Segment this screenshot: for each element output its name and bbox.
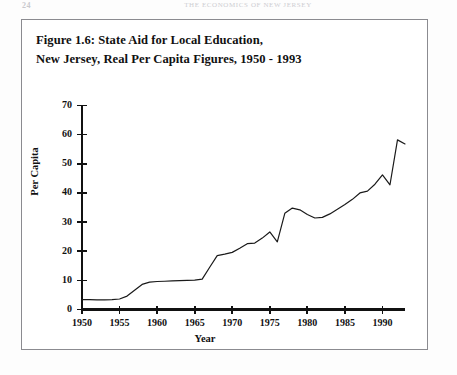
y-axis-tick-label: 40 (50, 186, 72, 197)
x-axis-tick-label: 1990 (362, 317, 402, 328)
x-axis-tick-label: 1960 (137, 317, 177, 328)
x-axis-tick-label: 1955 (100, 317, 140, 328)
y-axis-tick-label: 0 (50, 303, 72, 314)
y-axis-tick-label: 20 (50, 245, 72, 256)
x-axis-tick-label: 1985 (325, 317, 365, 328)
x-axis-tick-label: 1970 (212, 317, 252, 328)
line-chart-plot: Per Capita Year 010203040506070 19501955… (0, 0, 457, 375)
data-series-line (82, 140, 405, 300)
y-axis-title: Per Capita (29, 137, 40, 207)
y-axis-tick-label: 30 (50, 216, 72, 227)
x-axis-tick-label: 1965 (175, 317, 215, 328)
y-axis-tick-label: 70 (50, 99, 72, 110)
y-axis-tick-label: 10 (50, 274, 72, 285)
x-axis-tick-label: 1980 (287, 317, 327, 328)
y-axis-tick-label: 50 (50, 157, 72, 168)
x-axis-tick-label: 1975 (250, 317, 290, 328)
y-axis-tick-label: 60 (50, 128, 72, 139)
document-page: 24 THE ECONOMICS OF NEW JERSEY Figure 1.… (0, 0, 457, 375)
x-axis-title: Year (175, 333, 235, 344)
x-axis-tick-label: 1950 (62, 317, 102, 328)
